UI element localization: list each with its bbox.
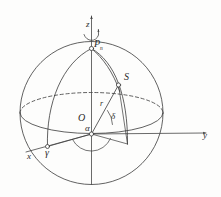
celestial-sphere-drawing xyxy=(0,0,221,197)
origin-to-gamma-line xyxy=(48,134,92,147)
pole-label-subscript: n xyxy=(100,45,103,51)
right-ascension-label: α xyxy=(85,124,90,133)
declination-label: δ xyxy=(111,112,115,121)
pole-point-marker xyxy=(89,46,93,50)
x-axis-label: x xyxy=(27,152,31,161)
origin-point-marker xyxy=(89,132,93,136)
pole-to-star-arc xyxy=(92,49,121,93)
origin-label: O xyxy=(78,113,85,123)
vernal-equinox-label: γ xyxy=(45,148,49,158)
star-label: S xyxy=(124,72,129,82)
radius-label: r xyxy=(100,100,103,108)
y-axis-label: y xyxy=(203,131,207,140)
origin-to-star-projection xyxy=(92,134,128,144)
celestial-sphere-figure: z Pn S r O δ α γ x y xyxy=(0,0,221,197)
z-axis-label: z xyxy=(86,20,90,29)
star-point-marker xyxy=(116,83,120,87)
meridian-through-star xyxy=(92,49,128,145)
pole-label: Pn xyxy=(94,39,103,52)
